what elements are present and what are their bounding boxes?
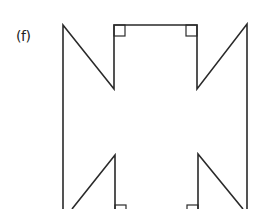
right-angle-marker-bottom-left [115,205,126,209]
right-angle-marker-top-left [114,25,125,36]
right-angle-marker-top-right [186,25,197,36]
right-angle-marker-bottom-right [187,205,198,209]
geometric-figure [0,0,261,209]
lower-right-triangle [198,154,243,209]
lower-left-triangle [72,155,115,209]
